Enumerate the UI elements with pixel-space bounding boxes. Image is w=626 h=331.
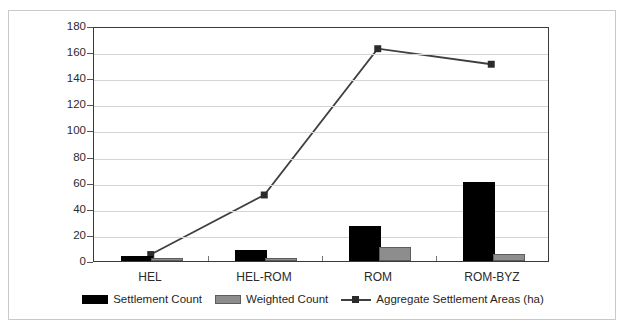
- legend-item-weighted-count[interactable]: Weighted Count: [215, 294, 328, 306]
- gridline: [94, 106, 548, 107]
- plot-area: [93, 27, 549, 262]
- black-bar-swatch-icon: [82, 295, 108, 304]
- gridline: [94, 80, 548, 81]
- x-axis-label-hel-rom: HEL-ROM: [207, 268, 321, 286]
- chart-legend: Settlement CountWeighted CountAggregate …: [0, 294, 626, 306]
- x-axis-separator: [436, 256, 437, 261]
- bar-weighted-count-rom: [379, 247, 411, 261]
- line-marker-hel-rom: [261, 192, 268, 199]
- legend-label: Weighted Count: [246, 294, 328, 306]
- bar-settlement-count-hel-rom: [235, 250, 267, 261]
- gray-bar-swatch-icon: [215, 295, 241, 304]
- gridline: [94, 54, 548, 55]
- bar-settlement-count-rom: [349, 226, 381, 261]
- x-axis-category-labels: HELHEL-ROMROMROM-BYZ: [93, 268, 549, 286]
- chart-figure: 180160140120100806040200 HELHEL-ROMROMRO…: [0, 0, 626, 331]
- line-marker-rom: [374, 45, 381, 52]
- gridline: [94, 159, 548, 160]
- bar-settlement-count-rom-byz: [463, 182, 495, 261]
- legend-item-settlement-count[interactable]: Settlement Count: [82, 294, 202, 306]
- legend-label: Aggregate Settlement Areas (ha): [376, 294, 544, 306]
- x-axis-separator: [208, 256, 209, 261]
- bar-settlement-count-hel: [121, 256, 153, 261]
- x-axis-label-rom: ROM: [321, 268, 435, 286]
- bar-weighted-count-rom-byz: [493, 254, 525, 261]
- legend-label: Settlement Count: [113, 294, 202, 306]
- bar-weighted-count-hel: [151, 258, 183, 262]
- legend-item-aggregate-settlement-areas-ha[interactable]: Aggregate Settlement Areas (ha): [341, 294, 544, 306]
- x-axis-label-rom-byz: ROM-BYZ: [435, 268, 549, 286]
- x-axis-separator: [322, 256, 323, 261]
- gridline: [94, 132, 548, 133]
- line-marker-rom-byz: [488, 61, 495, 68]
- line-square-marker-swatch-icon: [341, 295, 371, 304]
- bar-weighted-count-hel-rom: [265, 258, 297, 262]
- x-axis-label-hel: HEL: [93, 268, 207, 286]
